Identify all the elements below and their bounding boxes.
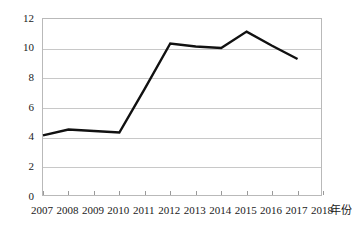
x-axis-tick	[323, 191, 324, 195]
x-axis-tick-label: 2013	[184, 204, 206, 217]
line-chart: 12 10 8 6 4 2 0 200720082009201020112012…	[0, 0, 360, 226]
y-axis-tick-label: 10	[0, 42, 34, 53]
x-axis-tick-label: 2011	[133, 204, 155, 217]
x-axis-labels: 2007200820092010201120122013201420152016…	[42, 204, 322, 220]
y-axis-tick-label: 8	[0, 72, 34, 83]
y-axis-tick-label: 6	[0, 102, 34, 113]
x-axis-tick-label: 2012	[158, 204, 180, 217]
x-axis-tick-label: 2009	[82, 204, 104, 217]
y-axis-tick-label: 0	[0, 191, 34, 202]
y-axis-tick-label: 4	[0, 131, 34, 142]
series-polyline	[43, 32, 298, 136]
x-axis-tick-label: 2015	[235, 204, 257, 217]
x-axis-tick-label: 2007	[31, 204, 53, 217]
x-axis-title: 年份	[330, 204, 352, 217]
x-axis-tick-label: 2014	[209, 204, 231, 217]
y-axis-tick-label: 12	[0, 13, 34, 24]
plot-area	[42, 18, 322, 196]
data-series-line	[43, 19, 323, 197]
x-axis-tick-label: 2010	[107, 204, 129, 217]
x-axis-tick-label: 2008	[56, 204, 78, 217]
y-axis-tick-label: 2	[0, 161, 34, 172]
x-axis-tick-label: 2017	[286, 204, 308, 217]
x-axis-tick-label: 2016	[260, 204, 282, 217]
